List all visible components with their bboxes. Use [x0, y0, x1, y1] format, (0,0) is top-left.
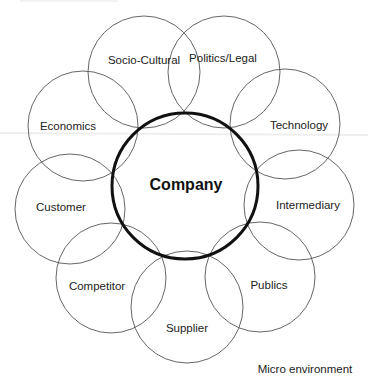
economics-label: Economics: [40, 120, 96, 132]
politics-legal-circle: [168, 16, 280, 128]
socio-cultural-label: Socio-Cultural: [108, 54, 180, 66]
technology-label: Technology: [270, 119, 328, 131]
supplier-label: Supplier: [166, 322, 208, 334]
scan-artifact-line: [0, 133, 368, 135]
politics-legal-label: Politics/Legal: [189, 52, 257, 64]
micro-environment-caption: Micro environment: [258, 363, 353, 375]
socio-cultural-circle: [88, 16, 200, 128]
intermediary-label: Intermediary: [276, 199, 340, 211]
publics-circle: [205, 222, 315, 332]
company-environment-diagram: Company Socio-CulturalPolitics/LegalTech…: [0, 0, 368, 387]
publics-label: Publics: [250, 279, 287, 291]
supplier-circle: [131, 251, 243, 363]
company-label: Company: [150, 176, 223, 193]
competitor-label: Competitor: [69, 280, 125, 292]
competitor-circle: [56, 223, 166, 333]
customer-label: Customer: [36, 201, 86, 213]
